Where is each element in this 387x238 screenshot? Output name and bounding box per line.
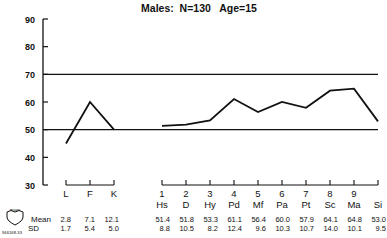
cell-value: 53.3 [203,215,218,224]
logo-label: mayo [10,207,21,212]
scale-label: F [87,188,93,199]
scale-number: 1 [159,188,164,199]
cell-value: 12.4 [227,224,242,233]
mayo-logo: mayo 946168-33 [2,207,23,235]
cell-value: 10.7 [299,224,314,233]
scale-number: 8 [327,188,332,199]
cell-value: 8.2 [208,224,218,233]
cell-value: 53.0 [371,215,386,224]
scale-label: Pt [302,199,311,210]
cell-value: 61.1 [227,215,242,224]
scale-number: 9 [351,188,356,199]
cell-value: 7.1 [85,215,95,224]
scale-label: Mf [253,199,264,210]
cell-value: 57.9 [299,215,314,224]
cell-value: 9.6 [256,224,266,233]
scale-label: Sc [324,199,335,210]
logo-shield-icon [7,211,23,226]
cell-value: 10.3 [275,224,290,233]
cell-value: 60.0 [275,215,290,224]
scale-label: Pa [276,199,288,210]
reference-lines [43,74,378,129]
cell-value: 51.4 [155,215,170,224]
y-tick-label: 70 [25,70,35,80]
y-axis: 30405060708090 [25,15,48,191]
scale-number: 5 [255,188,260,199]
scale-number: 7 [303,188,308,199]
scale-label: K [111,188,118,199]
cell-value: 2.8 [61,215,71,224]
y-tick-label: 50 [25,125,35,135]
logo-code: 946168-33 [2,230,23,235]
scale-label: Hs [156,199,168,210]
cell-value: 56.4 [251,215,266,224]
cell-value: 64.8 [347,215,362,224]
cell-value: 10.5 [179,224,194,233]
scale-label: L [63,188,68,199]
cell-value: 10.1 [347,224,362,233]
y-tick-label: 30 [25,181,35,191]
y-tick-label: 80 [25,42,35,52]
cell-value: 5.4 [85,224,95,233]
row-label-sd: SD [28,224,39,233]
scale-label: Pd [228,199,240,210]
cell-value: 9.5 [376,224,386,233]
y-tick-label: 40 [25,153,35,163]
cell-value: 64.1 [323,215,338,224]
y-tick-label: 90 [25,15,35,25]
scale-number: 3 [207,188,212,199]
mmpi-profile-chart: Males: N=130 Age=15 30405060708090 LFK1H… [0,0,387,238]
profile-line-clinical [162,89,378,126]
profile-line-validity [66,102,114,144]
cell-value: 8.8 [160,224,170,233]
cell-value: 1.7 [61,224,71,233]
scale-number: 2 [183,188,188,199]
scale-label: D [183,199,190,210]
scale-label: Si [374,199,382,210]
cell-value: 14.0 [323,224,338,233]
scale-label: Hy [204,199,216,210]
chart-title: Males: N=130 Age=15 [141,2,257,14]
x-axes [66,180,378,185]
scale-labels: LFK1Hs2D3Hy4Pd5Mf6Pa7Pt8Sc9MaSi [63,188,382,210]
row-label-mean: Mean [31,215,51,224]
stats-table: Mean2.87.112.151.451.853.361.156.460.057… [28,215,386,233]
scale-number: 4 [231,188,236,199]
cell-value: 12.1 [104,215,119,224]
scale-number: 6 [279,188,284,199]
cell-value: 51.8 [179,215,194,224]
profile-lines [66,89,378,144]
cell-value: 5.0 [109,224,119,233]
scale-label: Ma [347,199,361,210]
y-tick-label: 60 [25,98,35,108]
